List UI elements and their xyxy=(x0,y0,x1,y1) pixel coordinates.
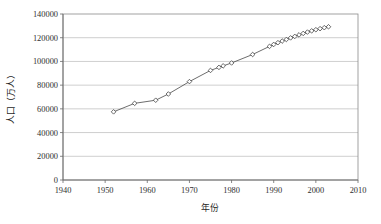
y-tick-label: 60000 xyxy=(37,105,58,114)
x-tick-label: 1960 xyxy=(139,186,156,195)
chart-canvas: 020000400006000080000100000120000140000 … xyxy=(0,0,381,224)
plot-background xyxy=(63,14,358,180)
x-tick-label: 2000 xyxy=(307,186,324,195)
x-tick-label: 2010 xyxy=(350,186,367,195)
y-tick-label: 140000 xyxy=(33,10,58,19)
population-line-chart: 020000400006000080000100000120000140000 … xyxy=(0,0,381,224)
y-tick-label: 80000 xyxy=(37,81,58,90)
x-tick-label: 1970 xyxy=(181,186,198,195)
x-tick-label: 1990 xyxy=(265,186,282,195)
x-axis-ticks: 19401950196019701980199020002010 xyxy=(55,180,367,195)
y-tick-label: 0 xyxy=(54,176,58,185)
x-tick-label: 1940 xyxy=(55,186,72,195)
y-tick-label: 20000 xyxy=(37,152,58,161)
y-tick-label: 100000 xyxy=(33,57,58,66)
x-axis-title: 年份 xyxy=(201,202,219,213)
y-axis-title: 人口（万人） xyxy=(6,70,16,124)
x-tick-label: 1950 xyxy=(97,186,114,195)
y-tick-label: 40000 xyxy=(37,129,58,138)
x-tick-label: 1980 xyxy=(223,186,240,195)
y-tick-label: 120000 xyxy=(33,34,58,43)
y-axis-ticks: 020000400006000080000100000120000140000 xyxy=(33,10,63,185)
